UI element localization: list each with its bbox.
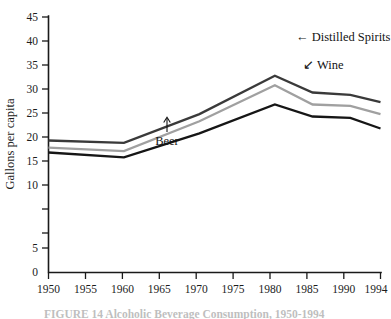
- figure-caption-strip: FIGURE 14 Alcoholic Beverage Consumption…: [0, 308, 391, 319]
- annotation-wine: ↙ Wine: [303, 58, 344, 72]
- x-tick-label-1975: 1975: [222, 283, 245, 295]
- y-tick-label-25: 25: [27, 107, 39, 119]
- y-tick-label-30: 30: [27, 83, 39, 95]
- x-axis-ticks: [49, 273, 381, 280]
- y-tick-label-40: 40: [27, 35, 39, 47]
- line-chart: 45 40 35 30 25 20 15 10 5 0 Gallons per …: [0, 0, 391, 319]
- axis-lines: [49, 16, 382, 273]
- x-tick-label-1994: 1994: [365, 283, 388, 295]
- x-tick-label-1965: 1965: [148, 283, 171, 295]
- y-tick-label-20: 20: [27, 131, 39, 143]
- y-tick-label-5: 5: [32, 242, 38, 254]
- x-tick-label-1950: 1950: [37, 283, 60, 295]
- y-tick-label-15: 15: [27, 155, 39, 167]
- x-tick-label-1985: 1985: [295, 283, 318, 295]
- x-tick-label-1990: 1990: [332, 283, 355, 295]
- annotation-distilled-spirits: ← Distilled Spirits: [296, 30, 391, 44]
- x-tick-label-1970: 1970: [185, 283, 208, 295]
- y-tick-label-45: 45: [27, 11, 39, 23]
- x-tick-label-1980: 1980: [259, 283, 282, 295]
- annotation-beer: Beer: [155, 134, 179, 148]
- x-tick-label-1960: 1960: [111, 283, 134, 295]
- figure-container: 45 40 35 30 25 20 15 10 5 0 Gallons per …: [0, 0, 391, 319]
- y-tick-label-10: 10: [27, 179, 39, 191]
- y-tick-label-0: 0: [32, 266, 38, 278]
- figure-caption: FIGURE 14 Alcoholic Beverage Consumption…: [44, 308, 364, 319]
- y-axis-ticks: [42, 17, 49, 248]
- y-axis-title: Gallons per capita: [3, 98, 17, 189]
- series-line-distilled-spirits: [49, 76, 381, 143]
- x-tick-label-1955: 1955: [74, 283, 97, 295]
- y-tick-label-35: 35: [27, 59, 39, 71]
